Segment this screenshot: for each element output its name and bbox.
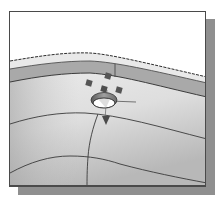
cad-figure	[0, 0, 219, 201]
model-viewport[interactable]	[9, 11, 206, 187]
model-canvas[interactable]	[10, 12, 206, 187]
